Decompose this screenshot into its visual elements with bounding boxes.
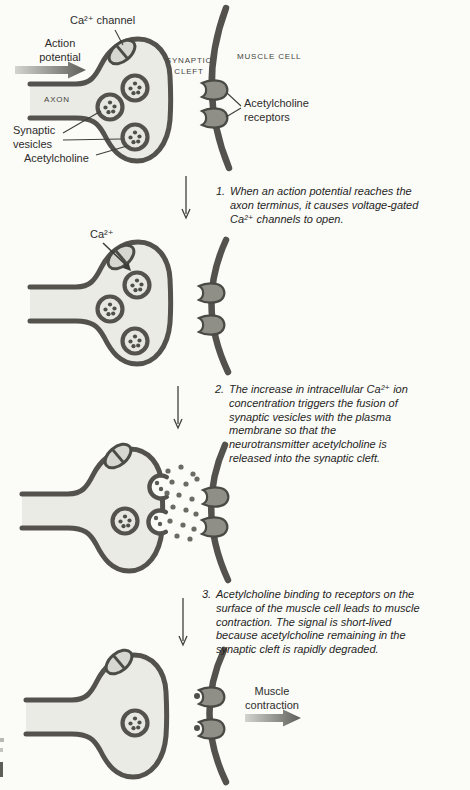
released-acetylcholine-dots (164, 464, 199, 541)
muscle-cell-membrane (211, 240, 228, 372)
synaptic-vesicle-icon (123, 329, 148, 354)
label-ca-channel: Ca²⁺ channel (70, 13, 135, 27)
step-3-text: 3. Acetylcholine binding to receptors on… (202, 588, 420, 657)
down-arrow-icon (182, 176, 190, 218)
down-arrow-icon (174, 386, 182, 428)
label-muscle-cell: MUSCLE CELL (237, 51, 301, 62)
ach-receptor-icon (199, 719, 224, 738)
step-3-number: 3. (202, 588, 216, 657)
figure-neuromuscular-junction: Ca²⁺ channel Action potential AXON Synap… (0, 0, 470, 790)
label-acetylcholine: Acetylcholine (24, 151, 89, 165)
label-action-potential: Action potential (28, 36, 92, 64)
bound-acetylcholine-dot (194, 725, 200, 731)
step-1-number: 1. (216, 185, 230, 226)
ach-receptor-icon (199, 283, 224, 302)
label-synaptic-cleft: SYNAPTIC CLEFT (158, 55, 220, 77)
ach-receptor-icon (203, 487, 228, 506)
step-1-text: 1. When an action potential reaches the … (216, 185, 418, 226)
synaptic-vesicle-icon (98, 297, 123, 322)
down-arrow-icon (179, 598, 187, 645)
ach-receptor-icon (202, 80, 227, 99)
step-2-number: 2. (215, 383, 229, 466)
axon-terminal (22, 449, 163, 571)
muscle-contraction-arrow (245, 710, 301, 727)
synaptic-vesicle-icon (113, 509, 138, 534)
panel-4-muscle-contraction (26, 645, 301, 782)
ach-receptor-icon (199, 687, 224, 706)
panel-3-vesicle-fusion (22, 439, 228, 580)
panel-2-calcium-entry (30, 240, 228, 372)
scan-artifact-marks (0, 738, 4, 777)
bound-acetylcholine-dot (194, 693, 200, 699)
synaptic-vesicle-icon (98, 95, 123, 120)
synaptic-vesicle-icon (123, 76, 148, 101)
label-muscle-contraction: Muscle contraction (241, 684, 303, 712)
ach-receptor-icon (202, 517, 227, 536)
label-ach-receptors: Acetylcholine receptors (244, 96, 336, 124)
action-potential-arrow (15, 62, 86, 79)
label-synaptic-vesicles: Synaptic vesicles (13, 123, 75, 151)
label-axon: AXON (44, 94, 70, 105)
synaptic-vesicle-icon (123, 711, 148, 736)
label-ca-ion: Ca²⁺ (90, 227, 114, 241)
ach-receptor-icon (199, 315, 224, 334)
step-2-text: 2. The increase in intracellular Ca²⁺ io… (215, 383, 408, 466)
fused-vesicle-pore (149, 476, 172, 499)
ach-receptor-icon (202, 108, 227, 127)
synaptic-vesicle-icon (125, 273, 150, 298)
muscle-cell-membrane (209, 650, 226, 782)
